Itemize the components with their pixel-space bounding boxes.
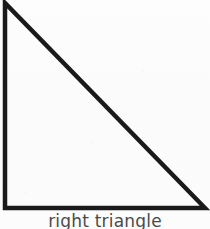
figure-caption: right triangle — [0, 213, 210, 229]
right-triangle-outline — [5, 3, 205, 208]
right-triangle-drawing — [0, 0, 210, 229]
right-triangle-figure: right triangle — [0, 0, 210, 229]
